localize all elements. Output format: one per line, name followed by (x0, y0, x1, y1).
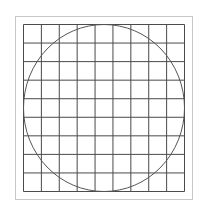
square-grid (24, 25, 185, 192)
grid-circle-diagram (0, 0, 205, 212)
inscribed-circle (24, 25, 185, 192)
outer-frame (16, 17, 193, 200)
